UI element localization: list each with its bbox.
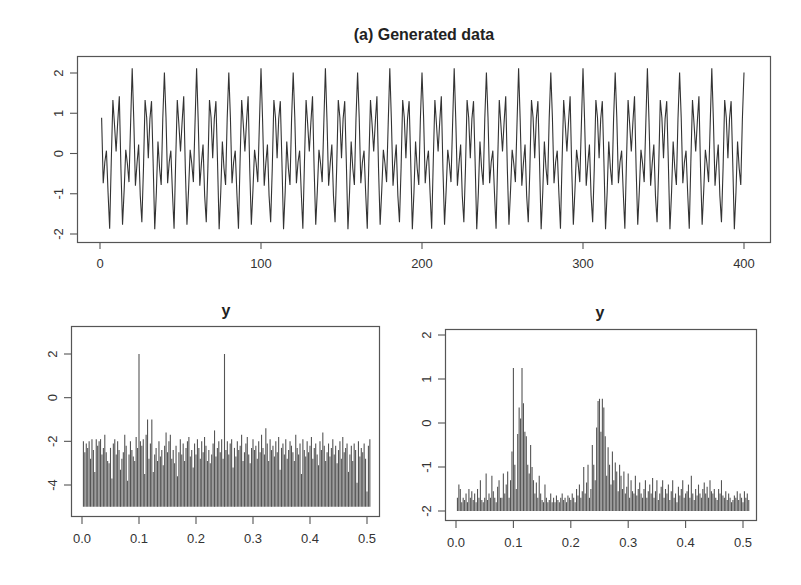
y-tick-label: 0 [419, 419, 434, 426]
x-tick-label: 0.4 [301, 531, 319, 546]
y-tick-label: 0 [51, 150, 66, 157]
plot-area [457, 368, 748, 511]
y-tick-label: -4 [45, 479, 60, 491]
axes: 0.00.10.20.30.40.5-2-1012 [419, 331, 752, 550]
y-tick-label: 1 [51, 110, 66, 117]
x-tick-label: 0.5 [734, 535, 752, 550]
y-tick-label: 0 [45, 394, 60, 401]
panel-raw-spectrum: y 0.00.10.20.30.40.5-4-202 [45, 302, 380, 546]
chart-title: y [596, 304, 605, 321]
x-tick-label: 0.0 [73, 531, 91, 546]
y-tick-label: 2 [419, 331, 434, 338]
x-tick-label: 0 [96, 256, 103, 271]
y-tick-label: -2 [45, 436, 60, 448]
chart-title: y [222, 302, 231, 319]
plot-area [83, 354, 369, 507]
y-tick-label: -2 [51, 228, 66, 240]
x-tick-label: 100 [250, 256, 272, 271]
x-tick-label: 400 [733, 256, 755, 271]
x-tick-label: 0.4 [677, 535, 695, 550]
y-tick-label: 2 [45, 350, 60, 357]
chart-title: (a) Generated data [354, 26, 495, 43]
x-tick-label: 0.2 [562, 535, 580, 550]
y-tick-label: -1 [419, 461, 434, 473]
x-tick-label: 0.2 [187, 531, 205, 546]
y-tick-label: -2 [419, 505, 434, 517]
x-tick-label: 300 [572, 256, 594, 271]
plot-area [102, 68, 744, 229]
y-tick-label: 2 [51, 69, 66, 76]
x-tick-label: 0.0 [447, 535, 465, 550]
y-tick-label: 1 [419, 375, 434, 382]
panel-smoothed-spectrum: y 0.00.10.20.30.40.5-2-1012 [419, 304, 757, 550]
figure: (a) Generated data 0100200300400-2-1012 … [0, 0, 801, 585]
x-tick-label: 200 [411, 256, 433, 271]
series-line [102, 68, 744, 229]
x-tick-label: 0.3 [244, 531, 262, 546]
x-tick-label: 0.1 [504, 535, 522, 550]
x-tick-label: 0.1 [130, 531, 148, 546]
panel-generated-data: (a) Generated data 0100200300400-2-1012 [51, 26, 771, 271]
y-tick-label: -1 [51, 188, 66, 200]
x-tick-label: 0.5 [358, 531, 376, 546]
x-tick-label: 0.3 [619, 535, 637, 550]
